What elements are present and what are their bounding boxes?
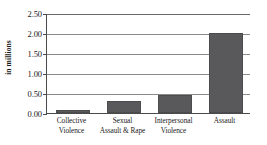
y-axis-tick-label: 1.00 — [28, 69, 42, 79]
bar-series — [47, 14, 250, 113]
x-axis-category-label: SexualAssault & Rape — [97, 116, 148, 135]
x-axis-category-label: Assault — [199, 116, 250, 126]
y-axis-tick-label: 0.50 — [28, 89, 42, 99]
x-axis-category-label: CollectiveViolence — [46, 116, 97, 135]
y-axis-tick-label: 2.50 — [28, 9, 42, 19]
bar — [56, 110, 90, 113]
x-axis-category-label: InterpersonalViolence — [148, 116, 199, 135]
x-axis-category-label-line: Interpersonal — [155, 116, 193, 125]
y-axis-title-text: in millions — [4, 40, 13, 75]
x-axis-category-label-line: Collective — [57, 116, 87, 125]
x-axis-category-label-line: Assault & Rape — [97, 126, 148, 136]
x-axis-category-label-line: Violence — [46, 126, 97, 136]
y-axis-tick-label: 1.50 — [28, 49, 42, 59]
bar-chart: in millions 2.502.001.501.000.500.00 Col… — [0, 0, 267, 145]
y-axis-tick-mark — [43, 114, 47, 115]
y-axis-tick-labels: 2.502.001.501.000.500.00 — [14, 0, 44, 120]
bar — [209, 33, 243, 113]
x-axis-category-label-line: Violence — [148, 126, 199, 136]
bar — [158, 95, 192, 113]
y-axis-tick-label: 2.00 — [28, 29, 42, 39]
y-axis-tick-label: 0.00 — [28, 109, 42, 119]
plot-area — [46, 14, 250, 114]
x-axis-category-label-line: Sexual — [113, 116, 133, 125]
bar — [107, 101, 141, 113]
x-axis-category-labels: CollectiveViolenceSexualAssault & RapeIn… — [46, 116, 250, 145]
x-axis-category-label-line: Assault — [214, 116, 236, 125]
